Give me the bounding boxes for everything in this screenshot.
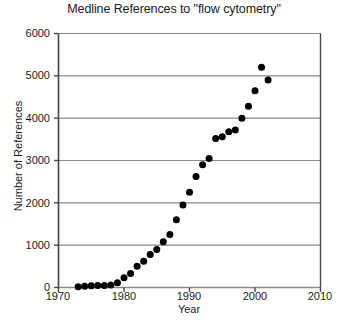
data-point: [206, 155, 213, 162]
data-points: [75, 64, 272, 290]
data-point: [88, 282, 95, 289]
data-point: [81, 283, 88, 290]
data-point: [232, 127, 239, 134]
data-point: [212, 135, 219, 142]
data-point: [107, 281, 114, 288]
data-point: [160, 238, 167, 245]
data-point: [245, 103, 252, 110]
data-point: [265, 77, 272, 84]
data-point: [186, 189, 193, 196]
data-point: [134, 263, 141, 270]
data-point: [252, 87, 259, 94]
data-point: [193, 173, 200, 180]
data-point: [94, 282, 101, 289]
data-point: [153, 246, 160, 253]
plot-area: [0, 0, 348, 332]
data-line: [78, 67, 268, 286]
data-point: [219, 133, 226, 140]
series-line: [78, 67, 268, 286]
data-point: [147, 251, 154, 258]
data-point: [75, 283, 82, 290]
data-point: [140, 258, 147, 265]
data-point: [199, 161, 206, 168]
data-point: [238, 115, 245, 122]
gridlines: [59, 34, 321, 288]
data-point: [225, 128, 232, 135]
data-point: [114, 279, 121, 286]
data-point: [121, 274, 128, 281]
chart-figure: Medline References to "flow cytometry" N…: [0, 0, 348, 332]
data-point: [258, 64, 265, 71]
data-point: [166, 231, 173, 238]
data-point: [127, 270, 134, 277]
data-point: [101, 282, 108, 289]
data-point: [179, 201, 186, 208]
axis-ticks: [54, 34, 321, 293]
data-point: [173, 216, 180, 223]
